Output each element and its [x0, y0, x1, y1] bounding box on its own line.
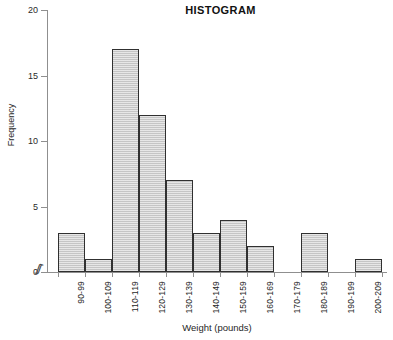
y-tick-label: 5	[8, 202, 38, 212]
x-tick-mark	[274, 272, 275, 277]
x-axis-title: Weight (pounds)	[47, 322, 387, 333]
x-tick-label: 120-129	[157, 281, 167, 314]
x-tick-mark	[112, 272, 113, 277]
histogram-chart: HISTOGRAM 05101520 90-99100-109110-11912…	[0, 0, 393, 340]
y-tick-label: 20	[8, 5, 38, 15]
histogram-bar	[58, 233, 85, 272]
histogram-bar	[247, 246, 274, 272]
y-axis-title: Frequency	[6, 90, 16, 160]
y-tick-label: 15	[8, 71, 38, 81]
x-tick-mark	[220, 272, 221, 277]
x-tick-mark	[382, 272, 383, 277]
x-tick-mark	[166, 272, 167, 277]
x-axis-line	[47, 272, 387, 273]
x-tick-mark	[247, 272, 248, 277]
y-tick-label: 0	[8, 267, 38, 277]
x-tick-mark	[301, 272, 302, 277]
x-tick-label: 100-109	[103, 281, 113, 314]
x-tick-label: 160-169	[265, 281, 275, 314]
histogram-bar	[112, 49, 139, 272]
histogram-bar	[301, 233, 328, 272]
y-tick-mark	[41, 272, 48, 273]
x-tick-label: 110-119	[130, 281, 140, 312]
histogram-bar	[355, 259, 382, 272]
x-tick-mark	[193, 272, 194, 277]
plot-area	[47, 10, 385, 272]
x-tick-label: 190-199	[346, 281, 356, 314]
histogram-bar	[85, 259, 112, 272]
x-tick-label: 180-189	[319, 281, 329, 314]
x-tick-mark	[85, 272, 86, 277]
axis-break-icon: ʃʃ	[35, 261, 43, 275]
histogram-bar	[139, 115, 166, 272]
x-tick-label: 170-179	[292, 281, 302, 314]
histogram-bar	[166, 180, 193, 272]
x-tick-label: 140-149	[211, 281, 221, 314]
x-tick-label: 130-139	[184, 281, 194, 314]
x-tick-label: 200-209	[373, 281, 383, 314]
x-tick-label: 90-99	[76, 281, 86, 304]
x-tick-mark	[139, 272, 140, 277]
x-tick-label: 150-159	[238, 281, 248, 314]
histogram-bar	[220, 220, 247, 272]
x-tick-mark	[355, 272, 356, 277]
x-tick-mark	[58, 272, 59, 277]
histogram-bar	[193, 233, 220, 272]
x-tick-mark	[328, 272, 329, 277]
